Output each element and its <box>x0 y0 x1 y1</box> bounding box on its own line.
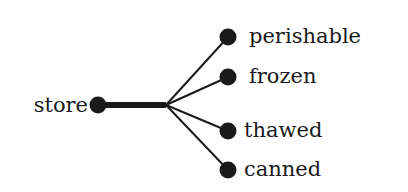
root-node-dot <box>90 97 107 114</box>
node-dot-canned <box>220 162 237 179</box>
branch-canned <box>166 105 228 170</box>
branch-perishable <box>166 37 228 105</box>
node-label-frozen: frozen <box>249 64 316 88</box>
node-dot-thawed <box>220 123 237 140</box>
node-label-canned: canned <box>244 157 321 181</box>
node-dot-perishable <box>220 29 237 46</box>
node-dot-frozen <box>220 69 237 86</box>
node-label-perishable: perishable <box>249 24 361 48</box>
branch-frozen <box>166 77 228 105</box>
branch-thawed <box>166 105 228 131</box>
node-label-thawed: thawed <box>244 118 322 142</box>
tree-diagram: store perishable frozen thawed canned <box>0 0 408 192</box>
root-label: store <box>34 93 88 117</box>
